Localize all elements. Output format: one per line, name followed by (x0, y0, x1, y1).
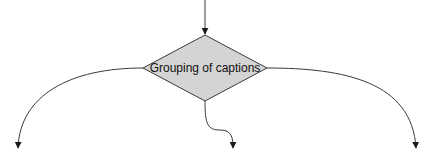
middle-branch-arrow (205, 101, 233, 148)
decision-label: Grouping of captions (150, 61, 261, 75)
right-branch-arrow (267, 68, 416, 148)
flowchart: Grouping of captions (0, 0, 438, 159)
left-branch-arrow (18, 68, 143, 148)
